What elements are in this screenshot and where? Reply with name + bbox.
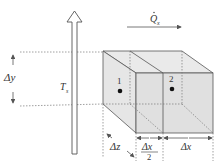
svg-text:2: 2	[147, 152, 151, 161]
delta-x-dimension: Δx	[164, 138, 212, 152]
svg-text:s: s	[66, 88, 69, 94]
heat-conduction-diagram: 1 2 Q x T s Δy Δz Δx 2 Δx	[0, 0, 219, 161]
svg-text:Δx: Δx	[180, 141, 192, 152]
delta-y-dimension: Δy	[3, 55, 15, 103]
delta-x-half-dimension: Δx 2	[137, 138, 162, 161]
svg-text:Δz: Δz	[109, 141, 120, 152]
svg-text:1: 1	[117, 76, 122, 86]
surface-temp-label: T s	[60, 81, 69, 94]
svg-text:2: 2	[169, 74, 174, 84]
svg-text:x: x	[156, 20, 160, 26]
surface-arrow	[67, 11, 82, 154]
svg-text:Δy: Δy	[3, 71, 15, 83]
delta-z-dimension: Δz	[107, 134, 134, 157]
svg-text:Δx: Δx	[141, 141, 153, 152]
heat-flow-label: Q x	[150, 12, 160, 26]
